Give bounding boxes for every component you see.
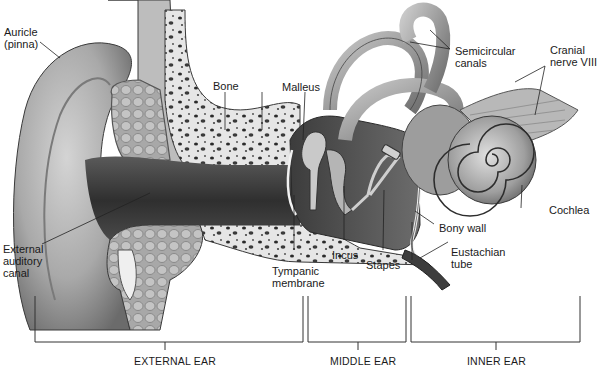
label-bone: Bone	[213, 80, 239, 92]
label-semicircular-canals: Semicircular canals	[455, 45, 516, 69]
label-cranial-nerve-viii: Cranial nerve VIII	[550, 44, 597, 68]
label-malleus: Malleus	[282, 81, 320, 93]
label-external-auditory-canal: External auditory canal	[3, 243, 43, 279]
label-tympanic-membrane: Tympanic membrane	[272, 265, 325, 289]
label-eustachian-tube: Eustachian tube	[451, 246, 505, 270]
label-auricle: Auricle (pinna)	[4, 26, 38, 50]
section-external-ear: EXTERNAL EAR	[134, 355, 216, 367]
section-inner-ear: INNER EAR	[467, 355, 526, 367]
label-bony-wall: Bony wall	[439, 222, 486, 234]
label-incus: Incus	[332, 249, 358, 261]
eustachian-tube-shape	[402, 250, 450, 290]
label-stapes: Stapes	[366, 259, 400, 271]
section-middle-ear: MIDDLE EAR	[330, 355, 396, 367]
label-cochlea: Cochlea	[549, 204, 589, 216]
